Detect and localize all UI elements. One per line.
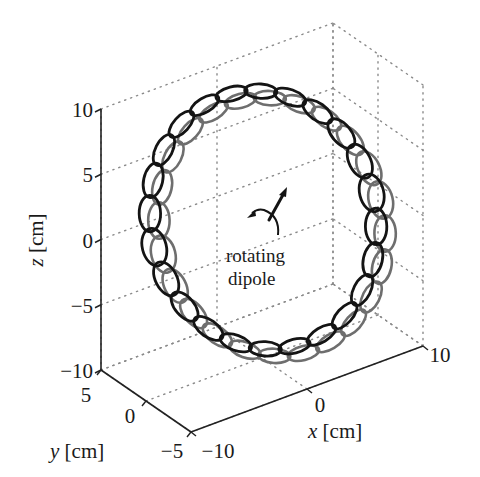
x-tick-mark	[191, 432, 196, 436]
z-tick-mark	[95, 305, 101, 308]
x-tick-mark	[307, 389, 312, 393]
z-axis-label: z [cm]	[24, 213, 48, 267]
y-tick-mark	[187, 432, 191, 437]
annotation-line-2: dipole	[228, 268, 276, 289]
z-tick-mark	[95, 240, 101, 243]
y-tick-neg5: −5	[161, 439, 183, 463]
y-axis-label: y [cm]	[48, 439, 104, 463]
polarization-ellipse-black	[328, 298, 361, 333]
z-tick-10: 10	[72, 98, 93, 122]
z-tick-neg10: −10	[60, 359, 93, 383]
polarization-ellipse-black	[166, 287, 203, 326]
polarization-ellipse-gray	[175, 294, 212, 333]
polarization-ellipse-black	[323, 114, 360, 153]
polarization-ellipse-gray	[332, 121, 369, 160]
x-axis-label: x [cm]	[307, 419, 362, 443]
y-tick-5: 5	[81, 383, 92, 407]
rotating-dipole-icon	[247, 187, 287, 235]
z-tick-labels: 10 5 0 −5 −10	[60, 98, 93, 383]
x-tick-neg10: −10	[202, 439, 235, 463]
z-tick-neg5: −5	[71, 294, 93, 318]
polarization-ellipse-gray	[174, 114, 207, 149]
z-tick-0: 0	[83, 229, 94, 253]
z-tick-mark	[95, 109, 101, 112]
y-tick-mark	[142, 401, 146, 406]
x-tick-0: 0	[315, 393, 326, 417]
x-tick-10: 10	[430, 343, 451, 367]
plot-canvas: rotating dipole 10 5 0 −5 −10 z [cm] 5 0…	[0, 0, 480, 477]
z-tick-mark	[95, 174, 101, 177]
annotation-line-1: rotating	[226, 245, 286, 266]
polarization-ellipse-gray	[337, 305, 370, 340]
polarization-ellipse-black	[165, 107, 198, 142]
x-tick-mark	[423, 346, 428, 350]
x-tick-labels: −10 0 10	[202, 343, 451, 463]
figure-3d-plot: rotating dipole 10 5 0 −5 −10 z [cm] 5 0…	[0, 0, 480, 477]
z-tick-5: 5	[83, 163, 94, 187]
y-tick-0: 0	[125, 404, 136, 428]
